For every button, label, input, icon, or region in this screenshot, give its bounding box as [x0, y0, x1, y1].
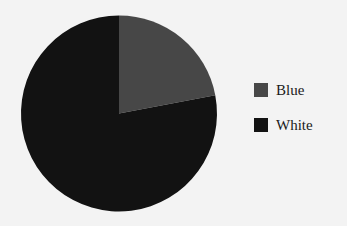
- pie-chart: [0, 0, 240, 226]
- legend-label-white: White: [276, 115, 313, 135]
- legend-label-blue: Blue: [276, 80, 304, 100]
- legend-swatch-blue: [254, 83, 268, 97]
- legend-swatch-white: [254, 118, 268, 132]
- legend-item-white: White: [254, 115, 313, 135]
- legend-item-blue: Blue: [254, 80, 313, 100]
- chart-legend: Blue White: [254, 80, 313, 150]
- pie-svg: [0, 0, 240, 226]
